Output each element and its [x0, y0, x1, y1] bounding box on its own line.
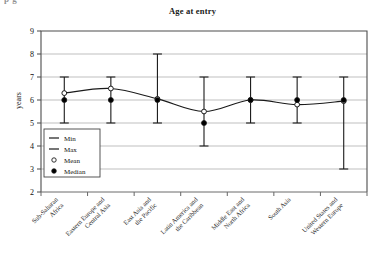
chart-legend[interactable]: MinMaxMeanMedian — [44, 129, 100, 177]
median-marker — [248, 98, 253, 103]
x-axis-label: Eastern Europe andCentral Asia — [64, 195, 112, 243]
mean-marker — [108, 86, 113, 91]
x-axis-ticks-group — [41, 192, 367, 196]
y-tick-label: 3 — [30, 165, 34, 174]
median-marker — [341, 98, 346, 103]
legend-label: Max — [64, 146, 77, 154]
x-axis-label-line: South Asia — [267, 196, 292, 221]
legend-filled-circle-icon — [52, 169, 57, 174]
y-tick-label: 5 — [30, 119, 34, 128]
y-tick-label: 6 — [30, 96, 34, 105]
x-axis-label: Sub-SaharanAfrica — [30, 195, 65, 230]
median-marker — [202, 121, 207, 126]
mean-marker — [62, 91, 67, 96]
plot-area: 98765432 Sub-SaharanAfricaEastern Europe… — [0, 0, 385, 275]
x-axis-label: Middle East andNorth Africa — [210, 195, 252, 237]
y-tick-label: 9 — [30, 27, 34, 36]
x-axis-label: East Asia andthe Pacific — [122, 195, 158, 231]
x-axis-labels-group: Sub-SaharanAfricaEastern Europe andCentr… — [30, 195, 344, 243]
legend-label: Min — [64, 135, 76, 143]
y-tick-label: 7 — [30, 73, 34, 82]
legend-label: Median — [64, 168, 86, 176]
mean-marker — [202, 109, 207, 114]
median-marker — [155, 98, 160, 103]
legend-label: Mean — [64, 157, 80, 165]
mean-marker — [295, 102, 300, 107]
x-axis-label: United States andWestern Europe — [301, 195, 345, 239]
x-axis-label: Latin America andthe Caribbean — [159, 195, 205, 241]
y-tick-label: 4 — [30, 142, 34, 151]
y-tick-label: 8 — [30, 50, 34, 59]
chart-figure: p g Age at entry years 98765432 Sub-Saha… — [0, 0, 385, 275]
median-marker — [62, 98, 67, 103]
error-bar — [153, 54, 162, 123]
y-axis-ticks-group: 98765432 — [30, 27, 41, 197]
median-marker — [295, 98, 300, 103]
x-axis-label: South Asia — [267, 196, 292, 221]
y-tick-label: 2 — [30, 188, 34, 197]
median-marker — [108, 98, 113, 103]
legend-open-circle-icon — [52, 158, 56, 162]
